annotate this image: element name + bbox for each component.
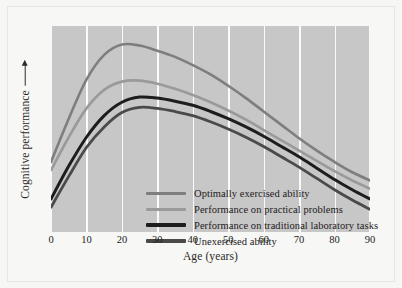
x-axis-label: Age (years)	[51, 250, 370, 262]
x-tick-label: 20	[117, 234, 128, 245]
legend-item[interactable]: Optimally exercised ability	[146, 186, 378, 200]
legend-item-label: Optimally exercised ability	[194, 188, 310, 199]
x-tick-label: 80	[329, 234, 340, 245]
x-tick-label: 10	[81, 234, 92, 245]
legend-swatch-icon	[146, 208, 186, 211]
curve-series-2	[51, 97, 370, 199]
plot-area: Optimally exercised abilityPerformance o…	[51, 26, 370, 232]
x-axis-ticks: 0102030405060708090	[51, 234, 370, 248]
x-tick-label: 70	[294, 234, 305, 245]
y-axis-label-text: Cognitive performance	[19, 90, 31, 198]
x-tick-label: 60	[258, 234, 269, 245]
legend-swatch-icon	[146, 192, 186, 195]
x-tick-label: 0	[48, 234, 53, 245]
legend-item-label: Performance on traditional laboratory ta…	[194, 220, 378, 231]
up-arrow-icon	[21, 59, 29, 85]
x-tick-label: 50	[223, 234, 234, 245]
x-tick-label: 90	[365, 234, 376, 245]
x-tick-label: 40	[188, 234, 199, 245]
legend-item-label: Performance on practical problems	[194, 204, 343, 215]
figure-container: Cognitive performance Optimally exercise…	[0, 0, 402, 288]
x-tick-label: 30	[152, 234, 163, 245]
legend-item[interactable]: Performance on traditional laboratory ta…	[146, 218, 378, 232]
legend-swatch-icon	[146, 223, 186, 227]
legend-item[interactable]: Performance on practical problems	[146, 202, 378, 216]
y-axis-label: Cognitive performance	[14, 26, 36, 232]
